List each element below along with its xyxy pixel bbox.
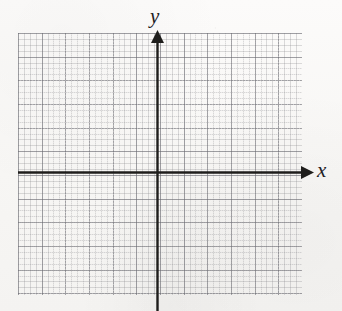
x-axis-arrow-icon <box>301 166 314 179</box>
x-axis-label: x <box>317 160 326 181</box>
coordinate-plane-figure: y x <box>0 0 342 311</box>
major-gridlines <box>18 33 302 295</box>
y-axis-label: y <box>150 6 159 27</box>
graph-paper-grid <box>18 33 302 295</box>
